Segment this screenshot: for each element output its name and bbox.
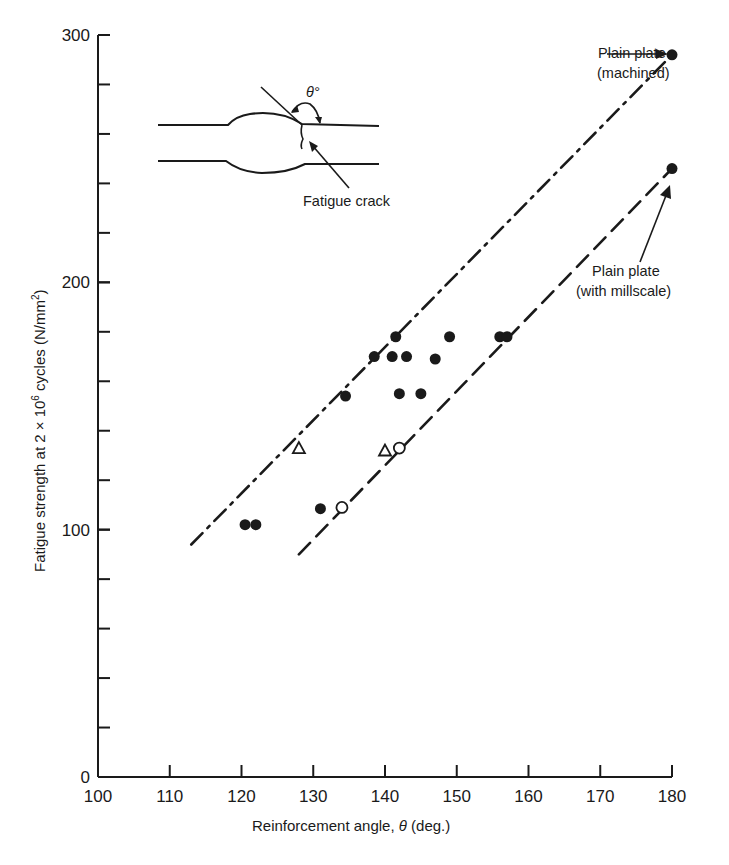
- x-tick-label: 160: [514, 787, 542, 806]
- data-point-filled-circle: [250, 519, 261, 530]
- x-tick-label: 140: [371, 787, 399, 806]
- data-point-filled-circle: [401, 351, 412, 362]
- data-point-open-triangle: [379, 445, 391, 456]
- data-point-filled-circle: [501, 331, 512, 342]
- reinforcement-tangent-line: [261, 87, 302, 125]
- x-axis-title: Reinforcement angle, θ (deg.): [252, 817, 450, 834]
- x-tick-label: 130: [299, 787, 327, 806]
- theta-arrowhead-right: [315, 117, 322, 124]
- fatigue-crack: [301, 125, 303, 149]
- y-tick-label: 100: [62, 521, 90, 540]
- axes: 0100200300100110120130140150160170180: [62, 26, 687, 806]
- x-tick-label: 170: [586, 787, 614, 806]
- data-point-filled-circle: [430, 354, 441, 365]
- millscale-arrowhead: [660, 185, 671, 199]
- data-point-filled-circle: [390, 331, 401, 342]
- data-point-open-circle: [394, 443, 405, 454]
- y-tick-label: 0: [81, 768, 90, 787]
- millscale-label-line2: (with millscale): [576, 283, 671, 299]
- lower-trend-line: [299, 169, 672, 555]
- plate-bottom-edge: [158, 161, 379, 173]
- plate-top-edge: [158, 113, 379, 126]
- weld-inset-diagram: [158, 87, 379, 188]
- y-axis-title: Fatigue strength at 2 × 106 cycles (N/mm…: [30, 290, 48, 573]
- data-point-filled-circle: [369, 351, 380, 362]
- machined-label-line2: (machined): [597, 65, 670, 81]
- data-point-filled-circle: [315, 503, 326, 514]
- upper-trend-line: [191, 55, 672, 545]
- y-tick-label: 200: [62, 273, 90, 292]
- data-point-filled-circle: [240, 519, 251, 530]
- data-point-open-circle: [336, 502, 347, 513]
- data-point-filled-circle: [667, 49, 678, 60]
- millscale-arrow: [640, 193, 667, 262]
- data-point-open-triangle: [293, 442, 305, 453]
- trend-lines: [191, 55, 672, 555]
- data-point-filled-circle: [415, 388, 426, 399]
- x-tick-label: 150: [443, 787, 471, 806]
- data-point-filled-circle: [340, 391, 351, 402]
- x-tick-label: 100: [84, 787, 112, 806]
- fatigue-crack-label: Fatigue crack: [303, 193, 391, 209]
- y-tick-label: 300: [62, 26, 90, 45]
- data-point-filled-circle: [387, 351, 398, 362]
- machined-label-line1: Plain plate: [598, 45, 666, 61]
- millscale-label-line1: Plain plate: [592, 263, 660, 279]
- fatigue-strength-chart: 0100200300100110120130140150160170180 θ°…: [0, 0, 729, 865]
- data-point-filled-circle: [667, 163, 678, 174]
- x-tick-label: 110: [156, 787, 183, 806]
- x-tick-label: 180: [658, 787, 686, 806]
- fatigue-crack-leader: [312, 145, 349, 188]
- data-point-filled-circle: [444, 331, 455, 342]
- data-point-filled-circle: [394, 388, 405, 399]
- x-tick-label: 120: [227, 787, 255, 806]
- theta-label: θ°: [306, 84, 320, 100]
